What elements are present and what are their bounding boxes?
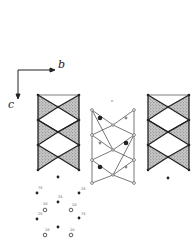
axis-label-c: c: [8, 98, 14, 111]
right-octahedral-chain: [147, 94, 191, 172]
atom-label: 10: [70, 229, 74, 233]
atom-label: 75: [81, 213, 85, 217]
structure-drawing: [0, 0, 194, 245]
atom-label: 10: [43, 203, 47, 207]
atom-label: 25: [38, 213, 42, 217]
atom-label: 25: [58, 196, 62, 200]
axis-label-b: b: [58, 58, 65, 71]
atom-label: 75: [38, 187, 42, 191]
atom-label: 25: [81, 188, 85, 192]
atom-label: 10: [72, 204, 76, 208]
crystal-structure-figure: b c n 75 25 25 10 10 25 75 10 10: [0, 0, 194, 245]
center-chain: [91, 109, 136, 185]
left-octahedral-chain: [37, 94, 81, 172]
atom-label: 10: [45, 229, 49, 233]
axis-arrows: [16, 68, 55, 99]
center-chain-label: n: [111, 100, 113, 104]
